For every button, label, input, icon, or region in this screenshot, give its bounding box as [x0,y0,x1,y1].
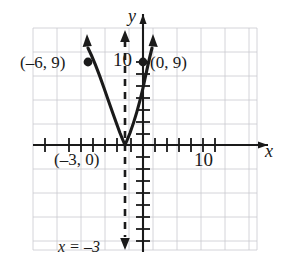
graph-figure: (–6, 9) (0, 9) (–3, 0) 10 10 x y x = –3 [0,0,290,267]
label-left-point: (–6, 9) [20,53,65,72]
axis-of-symmetry-label: x = –3 [57,238,100,255]
label-vertex-point: (–3, 0) [54,150,99,169]
label-right-point: (0, 9) [150,53,187,72]
y-axis-label: y [126,6,136,26]
point-marker-left [84,58,93,67]
x-axis-label: x [264,141,273,161]
coordinate-plane-svg: (–6, 9) (0, 9) (–3, 0) 10 10 x y x = –3 [0,0,290,267]
point-marker-right [139,58,148,67]
x-tick-label-10: 10 [194,149,213,170]
y-tick-label-10: 10 [113,49,132,70]
